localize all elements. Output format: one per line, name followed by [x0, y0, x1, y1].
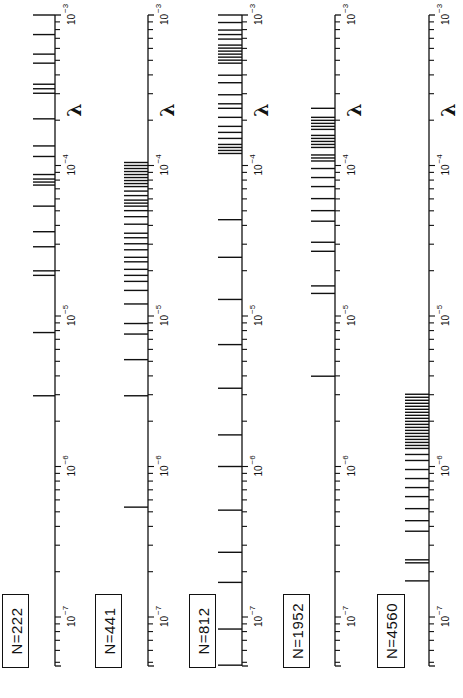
- svg-text:λ: λ: [343, 103, 365, 116]
- tick-label: 10−3: [435, 3, 451, 25]
- tick-label: 10−6: [341, 455, 357, 477]
- svg-text:10: 10: [159, 465, 170, 477]
- svg-text:10: 10: [253, 314, 264, 326]
- svg-text:10: 10: [159, 13, 170, 25]
- svg-text:10: 10: [253, 465, 264, 477]
- svg-text:10: 10: [66, 615, 77, 627]
- lambda-symbol: λ: [437, 103, 459, 116]
- tick-label: 10−7: [248, 605, 264, 627]
- lambda-symbol: λ: [63, 103, 85, 116]
- n-label-1952: N=1952: [283, 594, 310, 668]
- svg-text:−4: −4: [154, 154, 163, 164]
- tick-label: 10−6: [435, 455, 451, 477]
- tick-label: 10−4: [341, 154, 357, 176]
- svg-text:−6: −6: [248, 455, 257, 465]
- n-label-text: N=222: [7, 607, 24, 654]
- svg-text:10: 10: [66, 13, 77, 25]
- tick-label: 10−5: [435, 304, 451, 326]
- svg-text:−5: −5: [248, 304, 257, 314]
- n-label-text: N=1952: [288, 603, 305, 659]
- tick-label: 10−4: [248, 154, 264, 176]
- svg-text:−5: −5: [435, 304, 444, 314]
- lambda-symbol: λ: [343, 103, 365, 116]
- n-label-441: N=441: [95, 594, 122, 668]
- svg-text:−7: −7: [154, 605, 163, 615]
- axis-strip-n-441: 10−310−410−510−610−7λ: [124, 3, 178, 666]
- svg-text:−4: −4: [341, 154, 350, 164]
- tick-label: 10−3: [61, 3, 77, 25]
- tick-label: 10−4: [435, 154, 451, 176]
- svg-text:−4: −4: [435, 154, 444, 164]
- svg-text:−6: −6: [154, 455, 163, 465]
- svg-text:λ: λ: [250, 103, 272, 116]
- svg-text:−3: −3: [248, 3, 257, 13]
- svg-text:10: 10: [253, 164, 264, 176]
- svg-text:10: 10: [66, 164, 77, 176]
- tick-label: 10−5: [154, 304, 170, 326]
- svg-text:−3: −3: [154, 3, 163, 13]
- svg-text:−4: −4: [61, 154, 70, 164]
- tick-label: 10−5: [61, 304, 77, 326]
- svg-text:10: 10: [346, 465, 357, 477]
- svg-text:−3: −3: [61, 3, 70, 13]
- tick-label: 10−3: [154, 3, 170, 25]
- axis-strip-n-1952: 10−310−410−510−610−7λ: [311, 3, 365, 666]
- tick-label: 10−7: [435, 605, 451, 627]
- tick-label: 10−3: [341, 3, 357, 25]
- svg-text:10: 10: [440, 164, 451, 176]
- tick-label: 10−7: [154, 605, 170, 627]
- svg-text:10: 10: [159, 314, 170, 326]
- n-label-4560: N=4560: [377, 594, 405, 668]
- tick-label: 10−7: [61, 605, 77, 627]
- svg-text:λ: λ: [63, 103, 85, 116]
- n-label-222: N=222: [2, 594, 29, 668]
- tick-label: 10−3: [248, 3, 264, 25]
- svg-text:−6: −6: [435, 455, 444, 465]
- n-label-text: N=812: [194, 607, 211, 654]
- svg-text:λ: λ: [156, 103, 178, 116]
- n-label-text: N=441: [100, 607, 117, 654]
- axis-strip-n-812: 10−310−410−510−610−7λ: [218, 3, 272, 666]
- n-label-812: N=812: [189, 594, 216, 668]
- tick-label: 10−5: [248, 304, 264, 326]
- svg-text:10: 10: [346, 13, 357, 25]
- svg-text:10: 10: [159, 615, 170, 627]
- svg-text:10: 10: [66, 314, 77, 326]
- svg-text:−6: −6: [341, 455, 350, 465]
- axis-strip-n-4560: 10−310−410−510−610−7λ: [405, 3, 459, 666]
- svg-text:10: 10: [253, 13, 264, 25]
- svg-text:−7: −7: [341, 605, 350, 615]
- lambda-symbol: λ: [156, 103, 178, 116]
- svg-text:10: 10: [440, 615, 451, 627]
- tick-label: 10−6: [61, 455, 77, 477]
- svg-text:−7: −7: [435, 605, 444, 615]
- tick-label: 10−6: [154, 455, 170, 477]
- tick-label: 10−4: [61, 154, 77, 176]
- svg-text:10: 10: [253, 615, 264, 627]
- svg-text:10: 10: [440, 314, 451, 326]
- svg-text:λ: λ: [437, 103, 459, 116]
- svg-text:−7: −7: [61, 605, 70, 615]
- tick-label: 10−4: [154, 154, 170, 176]
- svg-text:10: 10: [159, 164, 170, 176]
- svg-text:−7: −7: [248, 605, 257, 615]
- svg-text:−3: −3: [435, 3, 444, 13]
- svg-text:−5: −5: [341, 304, 350, 314]
- svg-text:10: 10: [346, 164, 357, 176]
- svg-text:10: 10: [66, 465, 77, 477]
- svg-text:10: 10: [440, 465, 451, 477]
- tick-label: 10−7: [341, 605, 357, 627]
- svg-text:−5: −5: [154, 304, 163, 314]
- svg-text:10: 10: [346, 314, 357, 326]
- tick-label: 10−5: [341, 304, 357, 326]
- svg-text:10: 10: [440, 13, 451, 25]
- svg-text:−5: −5: [61, 304, 70, 314]
- svg-text:−4: −4: [248, 154, 257, 164]
- svg-text:10: 10: [346, 615, 357, 627]
- svg-text:−3: −3: [341, 3, 350, 13]
- svg-text:−6: −6: [61, 455, 70, 465]
- tick-label: 10−6: [248, 455, 264, 477]
- n-label-text: N=4560: [383, 603, 400, 659]
- axis-strip-n-222: 10−310−410−510−610−7λ: [33, 3, 85, 666]
- lambda-symbol: λ: [250, 103, 272, 116]
